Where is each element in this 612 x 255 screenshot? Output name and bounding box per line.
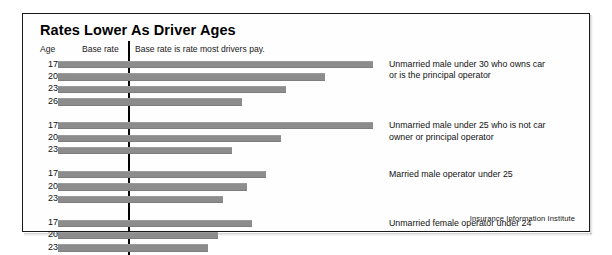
bar [58, 232, 218, 239]
age-label: 17 [40, 120, 58, 130]
age-label: 20 [40, 71, 58, 81]
age-label: 23 [40, 242, 58, 252]
age-label: 23 [40, 144, 58, 154]
bar [58, 122, 373, 129]
age-label: 20 [40, 229, 58, 239]
bar [58, 196, 223, 203]
age-label: 23 [40, 193, 58, 203]
category-label: Unmarried male under 25 who is not car o… [389, 120, 545, 143]
age-label: 17 [40, 59, 58, 69]
age-label: 26 [40, 96, 58, 106]
category-label: Married male operator under 25 [389, 169, 513, 180]
age-label: 20 [40, 181, 58, 191]
bar [58, 86, 286, 93]
age-label: 23 [40, 83, 58, 93]
bar [58, 183, 247, 190]
bar [58, 171, 266, 178]
source-credit: Insurance Information Institute [470, 214, 575, 223]
category-label: Unmarried male under 30 who owns car or … [389, 59, 545, 82]
bar [58, 135, 281, 142]
age-label: 17 [40, 217, 58, 227]
bar [58, 61, 373, 68]
bar [58, 73, 325, 80]
scan-shadow-right [590, 15, 593, 234]
bar [58, 220, 252, 227]
age-label: 17 [40, 168, 58, 178]
age-label: 20 [40, 132, 58, 142]
bar [58, 147, 232, 154]
chart-frame: Rates Lower As Driver Ages Age Base rate… [22, 13, 590, 232]
bar [58, 98, 242, 105]
plot-area: 17202326Unmarried male under 30 who owns… [23, 14, 589, 231]
bar [58, 244, 208, 251]
